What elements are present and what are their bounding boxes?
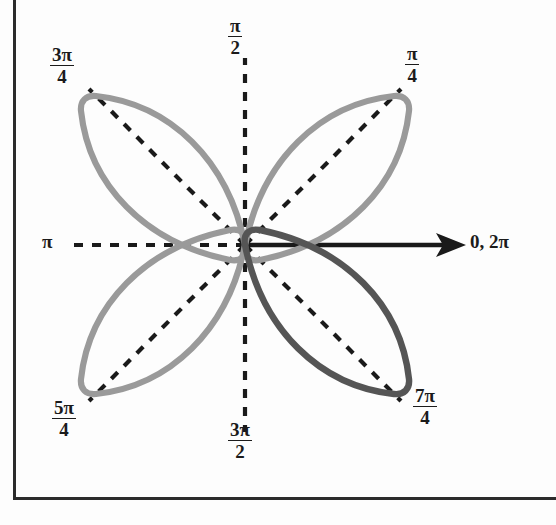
petal-upper-left [81, 96, 245, 260]
polar-rose-plot [0, 0, 556, 525]
petal-lower-right-highlighted [245, 230, 409, 394]
fraction-five-pi-over-4: 5π 4 [52, 398, 76, 439]
fraction-denominator: 4 [50, 66, 74, 86]
rose-petal-dark-group [245, 230, 409, 394]
ray-pi4-line [245, 89, 401, 245]
fraction-pi-over-2: π 2 [228, 16, 242, 57]
ray-3pi4-line [89, 89, 245, 245]
figure-canvas: π 2 π 4 3π 4 π 0, 2π 5π 4 3π 2 7π [0, 0, 556, 525]
ray-7pi4-line [245, 245, 401, 401]
angle-label-pi: π [42, 232, 52, 251]
fraction-numerator: π [405, 44, 419, 65]
angle-label-five-pi-over-4: 5π 4 [52, 398, 76, 439]
fraction-numerator: 7π [413, 386, 437, 407]
angle-label-seven-pi-over-4: 7π 4 [413, 386, 437, 427]
fraction-three-pi-over-4: 3π 4 [50, 45, 74, 86]
fraction-three-pi-over-2: 3π 2 [228, 420, 252, 461]
angle-label-pi-over-4: π 4 [405, 44, 419, 85]
angle-label-pi-over-2: π 2 [228, 16, 242, 57]
fraction-numerator: 5π [52, 398, 76, 419]
angle-label-three-pi-over-4: 3π 4 [50, 45, 74, 86]
angle-label-zero-two-pi: 0, 2π [470, 232, 509, 251]
fraction-seven-pi-over-4: 7π 4 [413, 386, 437, 427]
fraction-denominator: 2 [228, 37, 242, 57]
petal-upper-right [245, 96, 409, 260]
fraction-pi-over-4: π 4 [405, 44, 419, 85]
angle-label-zero-two-pi-text: 0, 2π [470, 231, 509, 252]
fraction-denominator: 4 [405, 65, 419, 85]
angle-label-three-pi-over-2: 3π 2 [228, 420, 252, 461]
angle-label-pi-text: π [42, 231, 52, 252]
fraction-denominator: 4 [52, 419, 76, 439]
fraction-numerator: π [228, 16, 242, 37]
fraction-denominator: 4 [413, 407, 437, 427]
fraction-numerator: 3π [228, 420, 252, 441]
ray-5pi4-line [89, 245, 245, 401]
petal-lower-left [81, 230, 245, 394]
fraction-numerator: 3π [50, 45, 74, 66]
fraction-denominator: 2 [228, 441, 252, 461]
